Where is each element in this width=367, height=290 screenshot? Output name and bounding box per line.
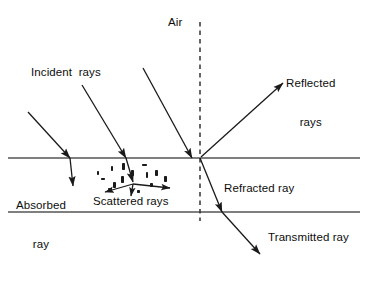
label-refracted-ray: Refracted ray xyxy=(224,182,294,195)
scattering-particle xyxy=(131,170,134,176)
label-reflected-line1: Reflected xyxy=(286,77,335,90)
label-absorbed-ray: Absorbed ray xyxy=(10,173,72,277)
incident-ray-2 xyxy=(82,85,126,158)
scattering-particle xyxy=(97,171,99,175)
label-reflected-line2: rays xyxy=(286,116,335,129)
label-incident-rays: Incident rays xyxy=(31,66,101,79)
label-reflected-rays: Reflected rays xyxy=(286,51,335,155)
scattering-particle xyxy=(150,183,153,187)
label-scattered-rays: Scattered rays xyxy=(93,195,169,208)
scattering-particle xyxy=(108,188,112,190)
label-transmitted-ray: Transmitted ray xyxy=(268,231,349,244)
scattering-particle xyxy=(142,164,147,166)
reflected-ray xyxy=(201,83,283,157)
incident-rays-group xyxy=(28,68,192,158)
label-air: Air xyxy=(168,16,182,29)
refracted-ray xyxy=(200,158,222,212)
scattering-particle xyxy=(113,182,116,188)
scattering-particle xyxy=(155,170,158,176)
label-absorbed-line1: Absorbed xyxy=(10,199,72,212)
label-absorbed-line2: ray xyxy=(10,238,72,251)
scattering-particle xyxy=(101,178,105,180)
scattering-particle xyxy=(137,190,140,193)
incident-ray-3 xyxy=(143,68,192,158)
incident-ray-1 xyxy=(28,112,70,158)
scattering-particle xyxy=(121,176,124,183)
scattering-particle xyxy=(111,166,113,171)
scattering-particle xyxy=(164,176,167,182)
scattering-particle xyxy=(146,172,148,178)
scattering-particle xyxy=(122,163,125,170)
optics-diagram: Air Incident rays Reflected rays Absorbe… xyxy=(0,0,367,290)
transmitted-ray xyxy=(222,212,260,254)
